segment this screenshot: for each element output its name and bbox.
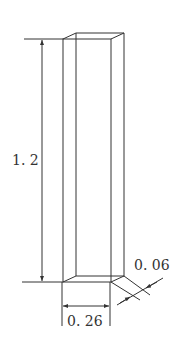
depth-label: 0. 06 xyxy=(134,257,170,273)
top-left-connector xyxy=(63,33,76,39)
front-face xyxy=(63,39,111,282)
depth-arrow-a xyxy=(120,297,130,303)
width-label: 0. 26 xyxy=(67,313,103,329)
bottom-left-connector xyxy=(63,276,76,282)
top-right-connector xyxy=(111,33,124,39)
depth-arrow-b xyxy=(146,282,157,288)
prism-diagram: 1. 2 0. 26 0. 06 xyxy=(0,0,188,341)
height-label: 1. 2 xyxy=(12,152,39,168)
bottom-right-connector xyxy=(111,276,124,282)
